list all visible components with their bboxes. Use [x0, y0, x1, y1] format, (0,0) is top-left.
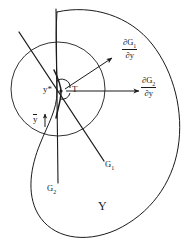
label-partial-g2-over-y: ∂G2 ∂y: [141, 76, 156, 98]
label-g1: G1: [105, 160, 114, 171]
partial-g1-num-text: ∂G: [123, 37, 133, 47]
label-g1-sub: 1: [111, 165, 114, 171]
label-T: T: [72, 85, 78, 94]
partial-g2-num-sub: 2: [152, 81, 155, 87]
label-y-star: y*: [43, 85, 52, 94]
label-partial-g1-over-y: ∂G1 ∂y: [122, 38, 137, 60]
partial-g2-numerator: ∂G2: [141, 76, 156, 88]
partial-g2-denominator: ∂y: [141, 88, 156, 97]
figure-canvas: y* T y G1 G2 Y ∂G1 ∂y ∂G2 ∂y: [0, 0, 192, 247]
label-g2: G2: [47, 184, 56, 195]
label-g2-sub: 2: [53, 189, 56, 195]
neighborhood-circle: [11, 42, 105, 136]
constraint-line-g2: [56, 9, 58, 183]
constraint-line-g1: [19, 32, 104, 161]
diagram-svg: [0, 0, 192, 247]
label-region-Y: Y: [98, 200, 107, 212]
partial-g2-num-text: ∂G: [142, 75, 152, 85]
point-y-star: [59, 89, 62, 92]
label-y-bar-text: y: [33, 114, 38, 124]
label-y-bar: y: [33, 115, 38, 124]
partial-g1-denominator: ∂y: [122, 50, 137, 59]
partial-g1-num-sub: 1: [133, 43, 136, 49]
partial-g1-numerator: ∂G1: [122, 38, 137, 50]
overbar: [33, 114, 37, 115]
